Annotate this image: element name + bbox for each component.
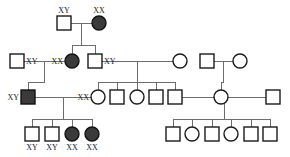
individual-IV-7-male-unaffected bbox=[205, 127, 219, 141]
individual-symbols bbox=[10, 16, 280, 141]
individual-II-3-male-unaffected bbox=[88, 54, 102, 68]
individual-II-6-female-unaffected bbox=[233, 54, 247, 68]
individual-III-5-male-unaffected bbox=[149, 90, 163, 104]
individual-IV-10-male-unaffected bbox=[263, 127, 277, 141]
individual-IV-5-male-unaffected bbox=[166, 127, 180, 141]
individual-II-2-female-affected bbox=[65, 54, 79, 68]
individual-I-1-male-unaffected bbox=[57, 16, 71, 30]
karyotype-label-10: XX bbox=[86, 143, 98, 152]
karyotype-label-5: XY bbox=[7, 93, 19, 102]
individual-III-3-male-unaffected bbox=[110, 90, 124, 104]
individual-III-7-female-unaffected bbox=[214, 90, 228, 104]
individual-IV-1-male-unaffected bbox=[25, 127, 39, 141]
individual-III-4-female-unaffected bbox=[130, 90, 144, 104]
individual-IV-9-male-unaffected bbox=[244, 127, 258, 141]
individual-II-1-male-unaffected bbox=[10, 54, 24, 68]
individual-II-5-male-unaffected bbox=[200, 54, 214, 68]
karyotype-label-6: XX bbox=[77, 93, 89, 102]
karyotype-label-0: XY bbox=[58, 6, 70, 15]
individual-IV-4-female-affected bbox=[85, 127, 99, 141]
individual-II-4-female-unaffected bbox=[173, 54, 187, 68]
karyotype-label-4: XY bbox=[104, 57, 116, 66]
individual-IV-2-male-unaffected bbox=[45, 127, 59, 141]
individual-IV-3-female-affected bbox=[65, 127, 79, 141]
karyotype-label-3: XX bbox=[51, 57, 63, 66]
karyotype-label-7: XY bbox=[26, 143, 38, 152]
pedigree-chart: XYXXXYXXXYXYXXXYXYXXXX bbox=[0, 0, 290, 157]
connector-lines bbox=[24, 23, 270, 127]
individual-IV-6-female-unaffected bbox=[185, 127, 199, 141]
pedigree-canvas: XYXXXYXXXYXYXXXYXYXXXX bbox=[0, 0, 290, 157]
individual-III-6-male-unaffected bbox=[168, 90, 182, 104]
individual-III-1-male-affected bbox=[21, 90, 35, 104]
individual-I-2-female-affected bbox=[92, 16, 106, 30]
karyotype-label-1: XX bbox=[93, 6, 105, 15]
individual-III-8-male-unaffected bbox=[266, 90, 280, 104]
individual-III-2-female-unaffected bbox=[91, 90, 105, 104]
karyotype-label-8: XY bbox=[46, 143, 58, 152]
karyotype-label-2: XY bbox=[26, 57, 38, 66]
karyotype-label-9: XX bbox=[66, 143, 78, 152]
individual-IV-8-female-unaffected bbox=[224, 127, 238, 141]
